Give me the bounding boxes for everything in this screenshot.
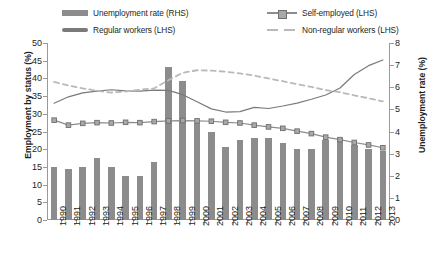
- series-marker: [52, 118, 57, 123]
- series-marker: [209, 119, 214, 124]
- x-axis-tick-label: 1994: [115, 206, 125, 226]
- x-axis-tick-label: 2006: [287, 206, 297, 226]
- x-axis-tick-label: 2007: [301, 206, 311, 226]
- series-marker: [123, 120, 128, 125]
- series-marker: [138, 120, 143, 125]
- plot-area: 05101520253035404550 012345678 199019911…: [47, 43, 390, 220]
- y-axis-left-tick: [43, 220, 47, 221]
- series-marker: [295, 129, 300, 134]
- x-axis-tick-label: 2000: [201, 206, 211, 226]
- x-axis-tick-label: 1993: [101, 206, 111, 226]
- x-axis-tick-label: 2002: [230, 206, 240, 226]
- x-axis-tick-label: 1992: [87, 206, 97, 226]
- legend-item-self-employed: Self-employed (LHS): [267, 8, 377, 18]
- y-axis-left-tick: [43, 43, 47, 44]
- series-marker: [266, 125, 271, 130]
- series-marker: [95, 120, 100, 125]
- x-axis-tick-label: 1997: [158, 206, 168, 226]
- y-axis-right-tick: [390, 43, 394, 44]
- y-axis-left-tick: [43, 202, 47, 203]
- legend-label: Unemployment rate (RHS): [93, 8, 188, 18]
- x-axis-tick-label: 2004: [258, 206, 268, 226]
- thick-line-swatch-icon: [62, 28, 88, 32]
- series-marker: [66, 123, 71, 128]
- x-axis-tick-label: 2010: [344, 206, 354, 226]
- chart-container: Unemployment rate (RHS) Regular workers …: [0, 0, 448, 261]
- legend-label: Regular workers (LHS): [93, 25, 175, 35]
- series-marker: [309, 131, 314, 136]
- series-marker: [323, 135, 328, 140]
- lines-layer: [47, 43, 390, 220]
- series-marker: [352, 140, 357, 145]
- y-axis-right-tick: [390, 109, 394, 110]
- series-marker: [166, 119, 171, 124]
- x-axis-tick-label: 1999: [187, 206, 197, 226]
- x-axis-tick-label: 2003: [244, 206, 254, 226]
- chart-legend: Unemployment rate (RHS) Regular workers …: [62, 8, 432, 42]
- series-marker: [109, 121, 114, 126]
- y-axis-left-tick: [43, 96, 47, 97]
- bar-swatch-icon: [62, 10, 88, 16]
- x-axis-tick-label: 1998: [172, 206, 182, 226]
- y-axis-right-tick: [390, 176, 394, 177]
- series-marker: [281, 126, 286, 131]
- series-marker: [338, 137, 343, 142]
- legend-item-regular-workers: Regular workers (LHS): [62, 25, 175, 35]
- y-axis-left-tick: [43, 132, 47, 133]
- x-axis-tick-label: 2001: [215, 206, 225, 226]
- y-axis-left-tick: [43, 78, 47, 79]
- y-axis-right-tick: [390, 65, 394, 66]
- x-axis-tick-label: 2011: [358, 207, 368, 226]
- x-axis-tick-label: 1995: [130, 206, 140, 226]
- y-axis-left-tick: [43, 114, 47, 115]
- series-marker: [366, 143, 371, 148]
- series-line: [54, 120, 383, 148]
- y-axis-right-title: Unemployment rate (%): [417, 35, 427, 175]
- legend-label: Self-employed (LHS): [302, 8, 377, 18]
- x-axis-tick-label: 2012: [373, 206, 383, 226]
- legend-item-non-regular-workers: Non-regular workers (LHS): [267, 25, 399, 35]
- x-axis-tick-label: 2005: [273, 206, 283, 226]
- y-axis-left-tick: [43, 61, 47, 62]
- x-axis-tick-label: 2013: [387, 206, 397, 226]
- y-axis-left-tick: [43, 149, 47, 150]
- y-axis-right-tick: [390, 132, 394, 133]
- series-marker: [195, 119, 200, 124]
- series-marker: [252, 123, 257, 128]
- series-marker: [180, 118, 185, 123]
- series-marker: [381, 145, 386, 150]
- x-axis-tick-label: 1990: [58, 206, 68, 226]
- y-axis-right-tick: [390, 198, 394, 199]
- series-marker: [238, 121, 243, 126]
- legend-label: Non-regular workers (LHS): [302, 25, 399, 35]
- series-line: [54, 70, 383, 101]
- y-axis-left-tick: [43, 167, 47, 168]
- x-axis-tick-label: 2009: [330, 206, 340, 226]
- y-axis-left-tick: [43, 185, 47, 186]
- y-axis-right-tick: [390, 87, 394, 88]
- series-marker: [223, 120, 228, 125]
- y-axis-right-tick: [390, 154, 394, 155]
- dashed-line-swatch-icon: [267, 29, 297, 32]
- series-marker: [152, 119, 157, 124]
- marker-line-swatch-icon: [267, 9, 297, 17]
- x-axis-tick-label: 1996: [144, 206, 154, 226]
- series-line: [54, 60, 383, 112]
- legend-item-unemployment-rate: Unemployment rate (RHS): [62, 8, 188, 18]
- x-axis-tick-label: 2008: [315, 206, 325, 226]
- x-axis-tick-label: 1991: [72, 206, 82, 226]
- series-marker: [80, 121, 85, 126]
